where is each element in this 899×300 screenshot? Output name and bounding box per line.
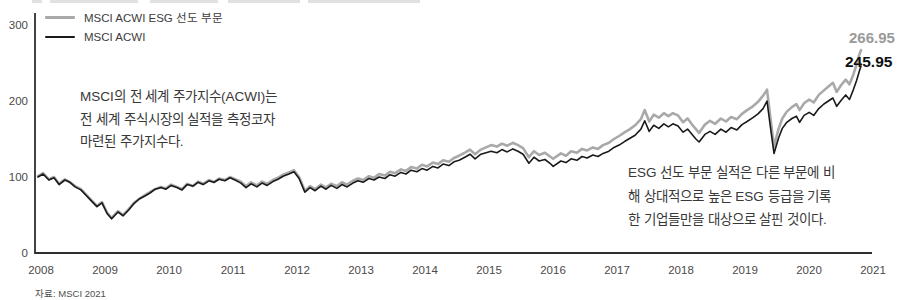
y-tick-label: 300 <box>9 19 28 31</box>
x-tick-label: 2020 <box>796 264 822 276</box>
legend-label-esg: MSCI ACWI ESG 선도 부문 <box>84 9 223 25</box>
x-tick-label: 2015 <box>476 264 502 276</box>
legend-item-acwi: MSCI ACWI <box>45 30 145 44</box>
x-tick-label: 2019 <box>732 264 758 276</box>
x-tick-label: 2017 <box>604 264 630 276</box>
x-tick-label: 2021 <box>860 264 886 276</box>
annotation-right-line-1: ESG 선도 부문 실적은 다른 부문에 비 <box>628 161 835 185</box>
legend-item-esg: MSCI ACWI ESG 선도 부문 <box>45 10 223 24</box>
y-tick-label: 100 <box>9 171 28 183</box>
end-value-esg: 266.95 <box>849 29 895 46</box>
y-tick-label: 200 <box>9 95 28 107</box>
x-tick-label: 2008 <box>28 264 54 276</box>
y-tick-label: 0 <box>22 247 28 259</box>
end-value-acwi: 245.95 <box>845 53 892 71</box>
x-tick-label: 2013 <box>348 264 374 276</box>
annotation-right-line-3: 한 기업들만을 대상으로 살핀 것이다. <box>628 208 835 232</box>
annotation-left: MSCI의 전 세계 주가지수(ACWI)는 전 세계 주식시장의 실적을 측정… <box>80 86 277 154</box>
legend-label-acwi: MSCI ACWI <box>84 31 145 43</box>
annotation-left-line-2: 전 세계 주식시장의 실적을 측정코자 <box>80 109 277 132</box>
x-tick-label: 2009 <box>92 264 118 276</box>
x-tick-label: 2018 <box>668 264 694 276</box>
x-tick-label: 2011 <box>221 264 246 276</box>
annotation-left-line-1: MSCI의 전 세계 주가지수(ACWI)는 <box>80 86 277 109</box>
chart-root: 0100200300200820092010201120122013201420… <box>0 0 899 300</box>
x-tick-label: 2014 <box>412 264 438 276</box>
x-tick-label: 2012 <box>284 264 310 276</box>
annotation-left-line-3: 마련된 주가지수다. <box>80 131 277 154</box>
source-note: 자료: MSCI 2021 <box>35 286 106 300</box>
x-tick-label: 2010 <box>156 264 182 276</box>
annotation-right: ESG 선도 부문 실적은 다른 부문에 비 해 상대적으로 높은 ESG 등급… <box>628 161 835 232</box>
legend-swatch-esg <box>45 16 75 19</box>
x-tick-label: 2016 <box>540 264 566 276</box>
legend-swatch-acwi <box>45 36 75 39</box>
annotation-right-line-2: 해 상대적으로 높은 ESG 등급을 기록 <box>628 185 835 209</box>
